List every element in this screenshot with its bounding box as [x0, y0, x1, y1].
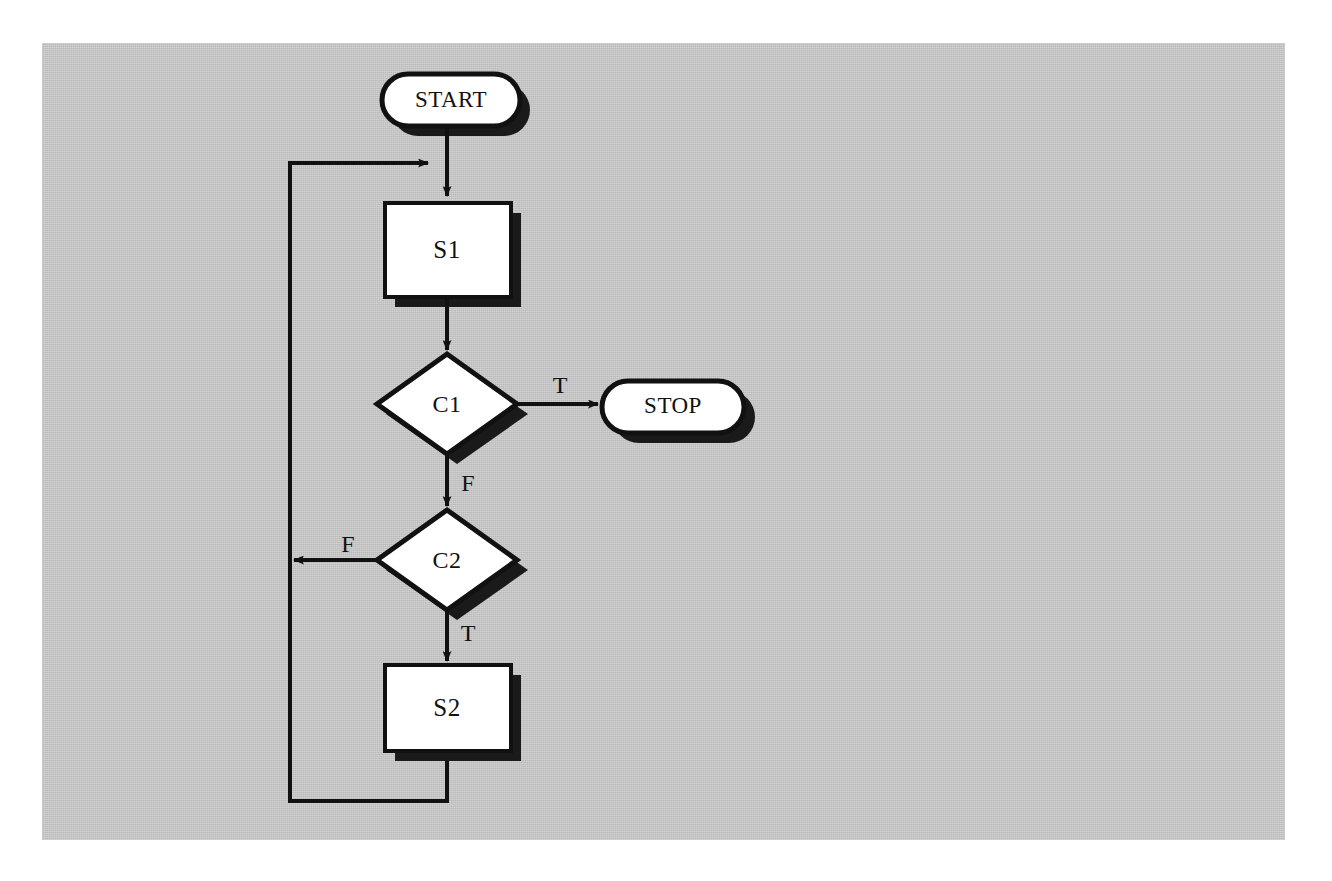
- node-stop-label: STOP: [644, 393, 702, 419]
- edge-label-c1-true: T: [553, 372, 568, 399]
- flowchart-page: START S1 C1 STOP C2 S2 T F F T: [0, 0, 1332, 881]
- edge-label-c2-true: T: [461, 620, 476, 647]
- node-s1-label: S1: [433, 236, 460, 264]
- edge-label-c1-false: F: [461, 470, 474, 497]
- node-c2-label: C2: [432, 547, 461, 574]
- edge-label-c2-false: F: [341, 531, 354, 558]
- node-s2-label: S2: [433, 694, 460, 722]
- node-c1-label: C1: [432, 391, 461, 418]
- node-start-label: START: [415, 87, 487, 113]
- flowchart-canvas: [0, 0, 1332, 881]
